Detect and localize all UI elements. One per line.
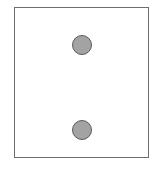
pip-top [72, 35, 92, 55]
pip-bottom [72, 120, 92, 140]
